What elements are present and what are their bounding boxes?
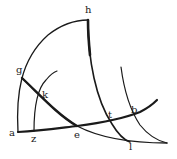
- label-g: g: [16, 64, 23, 75]
- label-b: b: [131, 104, 137, 115]
- arc-b-right: [121, 67, 167, 143]
- label-l: l: [129, 141, 132, 152]
- label-z: z: [31, 133, 36, 144]
- label-k: k: [42, 89, 49, 100]
- arc-a-h: [18, 20, 88, 132]
- label-a: a: [9, 127, 15, 138]
- arc-g-e-thick: [22, 78, 77, 126]
- arc-h-thick-segment: [88, 20, 90, 55]
- diagram-canvas: h g k a z e t b l: [0, 0, 177, 159]
- arc-g-e-l: [22, 78, 167, 143]
- label-t: t: [108, 109, 112, 120]
- geometry-diagram: h g k a z e t b l: [0, 0, 177, 159]
- label-h: h: [85, 4, 92, 15]
- label-e: e: [74, 129, 80, 140]
